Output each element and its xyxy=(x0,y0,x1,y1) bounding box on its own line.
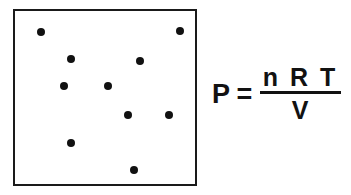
gas-particle xyxy=(37,28,45,36)
equation-denominator: V xyxy=(292,94,309,125)
gas-particle xyxy=(67,139,75,147)
equation-fraction: n R T V xyxy=(260,64,341,125)
equation-numerator: n R T xyxy=(260,64,341,91)
gas-particle xyxy=(165,111,173,119)
gas-particle xyxy=(130,166,138,174)
gas-particle xyxy=(67,55,75,63)
gas-particle xyxy=(176,27,184,35)
ideal-gas-law-equation: P = n R T V xyxy=(212,64,341,125)
gas-particle xyxy=(60,82,68,90)
equation-equals-sign: = xyxy=(237,81,253,108)
equation-lhs-pressure: P xyxy=(212,81,231,108)
gas-container xyxy=(13,9,197,186)
gas-particle xyxy=(136,57,144,65)
gas-particle xyxy=(124,111,132,119)
gas-particle xyxy=(104,82,112,90)
figure-canvas: P = n R T V xyxy=(0,0,351,195)
